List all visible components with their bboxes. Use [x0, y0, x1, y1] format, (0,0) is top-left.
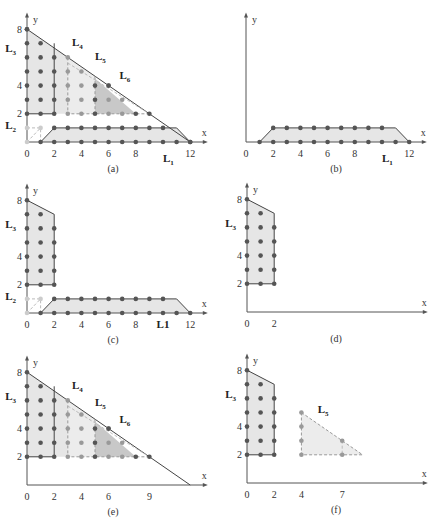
lattice-point [340, 438, 345, 443]
lattice-point [25, 97, 30, 102]
panel-d: xy02248L3(d) [225, 183, 428, 345]
lattice-point [25, 370, 30, 375]
lattice-point [25, 254, 30, 259]
lattice-point [66, 412, 71, 417]
lattice-point [120, 140, 125, 145]
lattice-point [380, 140, 385, 145]
lattice-point [106, 311, 111, 316]
lattice-point [66, 112, 71, 117]
x-axis-label: x [421, 127, 426, 138]
lattice-point [272, 253, 277, 258]
y-tick-label: 2 [17, 451, 22, 462]
lattice-point [312, 126, 317, 131]
panel-e: xy02469248L3L4L5L6(e) [5, 356, 208, 518]
x-axis-label: x [422, 468, 427, 479]
lattice-point [245, 424, 250, 429]
lattice-point [25, 412, 30, 417]
lattice-point [147, 126, 152, 131]
lattice-point [147, 112, 152, 117]
y-tick-label: 2 [17, 108, 22, 119]
x-tick-label: 8 [133, 319, 138, 330]
lattice-figure: xy0246812248L1L2L3L4L5L6(a)xy0246812L1(b… [0, 0, 436, 525]
line-label-L3: L3 [225, 388, 236, 403]
lattice-point [66, 55, 71, 60]
y-arrow-icon [25, 356, 29, 361]
lattice-point [52, 140, 57, 145]
x-tick-label: 4 [79, 491, 84, 502]
line-label-L3: L3 [225, 217, 236, 232]
lattice-point [271, 140, 276, 145]
lattice-point [245, 225, 250, 230]
lattice-point [25, 384, 30, 389]
lattice-point [25, 283, 30, 288]
lattice-point [298, 140, 303, 145]
lattice-point [285, 126, 290, 131]
lattice-point [299, 424, 304, 429]
x-tick-label: 12 [185, 148, 195, 159]
lattice-point [25, 27, 30, 32]
lattice-point [79, 297, 84, 302]
lattice-point [38, 83, 43, 88]
lattice-point [52, 311, 57, 316]
line-label-L1: L1 [163, 152, 174, 167]
lattice-point [79, 455, 84, 460]
lattice-point [38, 69, 43, 74]
x-tick-label: 8 [352, 148, 357, 159]
lattice-point [25, 268, 30, 273]
lattice-point [25, 440, 30, 445]
x-arrow-icon [422, 140, 427, 144]
x-tick-label: 6 [106, 491, 111, 502]
lattice-point [258, 225, 263, 230]
lattice-point [38, 212, 43, 217]
lattice-point [120, 455, 125, 460]
lattice-point [25, 83, 30, 88]
panel-caption: (f) [331, 504, 341, 516]
x-tick-label: 0 [25, 319, 30, 330]
lattice-point [52, 268, 57, 273]
x-tick-label: 2 [271, 148, 276, 159]
lattice-point [38, 240, 43, 245]
lattice-point [245, 410, 250, 415]
lattice-point [52, 426, 57, 431]
line-label-L3: L3 [5, 390, 16, 405]
lattice-point [258, 267, 263, 272]
lattice-point [52, 283, 57, 288]
lattice-point [66, 69, 71, 74]
lattice-point [93, 455, 98, 460]
y-arrow-icon [245, 354, 249, 359]
lattice-point [25, 126, 30, 131]
lattice-point [147, 455, 152, 460]
x-tick-label: 9 [147, 491, 152, 502]
x-tick-label: 2 [52, 491, 57, 502]
lattice-point [106, 140, 111, 145]
lattice-point [93, 297, 98, 302]
line-label-L2: L2 [5, 119, 16, 134]
y-arrow-icon [244, 13, 248, 18]
lattice-point [38, 126, 43, 131]
lattice-point [245, 396, 250, 401]
lattice-point [380, 126, 385, 131]
lattice-point [285, 140, 290, 145]
panel-c: xy02468L112248L2L3(c) [5, 184, 208, 346]
x-tick-label: 6 [106, 319, 111, 330]
y-tick-label: 4 [17, 251, 22, 262]
x-tick-label: 6 [106, 148, 111, 159]
lattice-point [66, 83, 71, 88]
lattice-point [25, 212, 30, 217]
x-axis-label: x [202, 298, 207, 309]
lattice-point [38, 426, 43, 431]
lattice-point [245, 438, 250, 443]
line-label-L6: L6 [119, 413, 130, 428]
lattice-point [52, 412, 57, 417]
y-arrow-icon [25, 13, 29, 18]
lattice-point [147, 311, 152, 316]
lattice-point [272, 438, 277, 443]
lattice-point [38, 297, 43, 302]
panel-caption: (a) [107, 163, 118, 175]
lattice-point [272, 410, 277, 415]
lattice-point [25, 455, 30, 460]
lattice-point [272, 225, 277, 230]
lattice-point [245, 239, 250, 244]
lattice-point [25, 240, 30, 245]
panel-b: xy0246812L1(b) [244, 13, 427, 175]
